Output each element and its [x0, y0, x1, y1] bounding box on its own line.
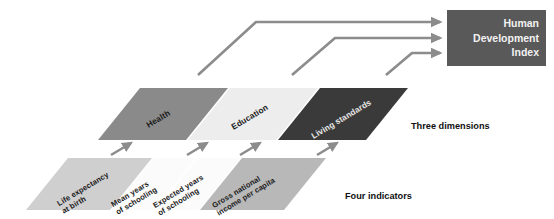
- hdi-line-3: Index: [512, 45, 539, 59]
- human-development-index-box: Human Development Index: [447, 10, 546, 66]
- link-arrow-gni-to-living-standards: [317, 143, 337, 155]
- link-arrow-expected-years-to-education: [240, 143, 260, 155]
- caption-four-indicators: Four indicators: [345, 191, 412, 201]
- indicator-shapes: [26, 158, 326, 210]
- flow-arrow-health-to-hdi: [198, 22, 440, 75]
- flow-arrows: [198, 22, 440, 75]
- link-arrow-mean-years-to-education: [187, 143, 207, 155]
- hdi-line-2: Development: [473, 31, 539, 45]
- flow-arrow-education-to-hdi: [292, 38, 440, 75]
- link-arrows: [111, 143, 337, 155]
- hdi-diagram: Human Development Index Health Education…: [0, 0, 554, 219]
- hdi-line-1: Human: [503, 16, 539, 30]
- caption-three-dimensions: Three dimensions: [411, 121, 490, 131]
- dimension-shapes: [98, 88, 408, 140]
- link-arrow-life-expectancy-to-health: [111, 143, 131, 155]
- flow-arrow-living-standards-to-hdi: [386, 53, 440, 75]
